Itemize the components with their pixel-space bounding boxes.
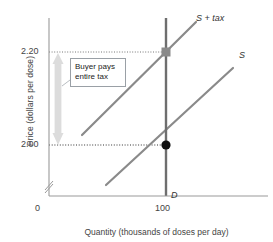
y-tick-label-220: 2.20 [21,46,39,56]
supply-demand-tax-figure: Price (dollars per dose) Quantity (thous… [0,0,273,242]
origin-tick-label: 0 [35,203,40,213]
equilibrium-point-before-tax [161,140,170,149]
callout-leader-line [62,80,70,86]
annotation-buyer-pays-entire-tax: Buyer pays entire tax [70,58,126,87]
annotation-line-2: entire tax [75,72,121,82]
tax-span-arrow [53,53,64,145]
annotation-line-1: Buyer pays [75,62,121,72]
equilibrium-point-after-tax [162,48,171,57]
chart-canvas [0,0,273,242]
x-tick-label-100: 100 [155,203,170,213]
y-tick-label-200: 2.00 [21,139,39,149]
x-axis-title: Quantity (thousands of doses per day) [40,227,273,237]
curve-label-s-plus-tax: S + tax [196,13,224,23]
curve-label-d: D [171,190,178,200]
curve-label-s: S [239,50,245,60]
